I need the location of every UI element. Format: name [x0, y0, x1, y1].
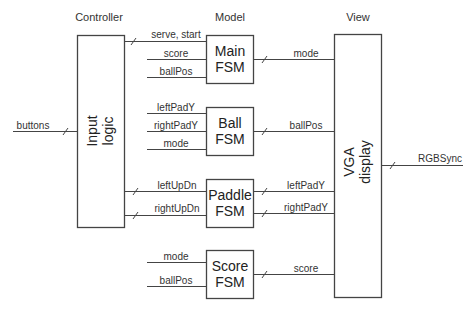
paddle-fsm-line1: Paddle [208, 188, 252, 204]
signal-rightpady-out: rightPadY [284, 202, 328, 213]
signal-buttons: buttons [17, 120, 50, 131]
score-fsm-label: Score FSM [212, 259, 249, 290]
input-logic-line2: logic [101, 115, 117, 146]
ball-fsm-line1: Ball [215, 116, 245, 132]
signal-leftupdn: leftUpDn [158, 180, 197, 191]
ball-fsm-label: Ball FSM [215, 116, 245, 147]
paddle-fsm-line2: FSM [208, 204, 252, 220]
ball-fsm-line2: FSM [215, 132, 245, 148]
vga-display-line2: display [358, 140, 374, 184]
section-controller: Controller [75, 11, 123, 23]
signal-ball-leftpady: leftPadY [157, 102, 195, 113]
paddle-fsm-label: Paddle FSM [208, 188, 252, 219]
vga-display-label: VGA display [342, 140, 373, 184]
signal-leftpady-out: leftPadY [287, 180, 325, 191]
signal-score-ballpos: ballPos [160, 275, 193, 286]
input-logic-line1: Input [85, 115, 101, 146]
signal-rightupdn: rightUpDn [154, 203, 199, 214]
signal-mode-out: mode [293, 48, 318, 59]
input-logic-label: Input logic [85, 115, 116, 146]
signal-ball-rightpady: rightPadY [154, 120, 198, 131]
main-fsm-label: Main FSM [215, 44, 245, 75]
section-model: Model [215, 11, 245, 23]
signal-ballpos-out: ballPos [290, 120, 323, 131]
main-fsm-line2: FSM [215, 60, 245, 76]
signal-serve-start: serve, start [151, 29, 200, 40]
main-fsm-line1: Main [215, 44, 245, 60]
signal-main-ballpos: ballPos [160, 66, 193, 77]
vga-display-line1: VGA [342, 140, 358, 184]
signal-score-out: score [294, 263, 318, 274]
signal-ball-mode: mode [163, 138, 188, 149]
signal-rgbsync: RGBSync [418, 153, 462, 164]
score-fsm-line1: Score [212, 259, 249, 275]
score-fsm-line2: FSM [212, 275, 249, 291]
signal-score-mode: mode [163, 251, 188, 262]
section-view: View [346, 11, 370, 23]
signal-main-score: score [164, 48, 188, 59]
